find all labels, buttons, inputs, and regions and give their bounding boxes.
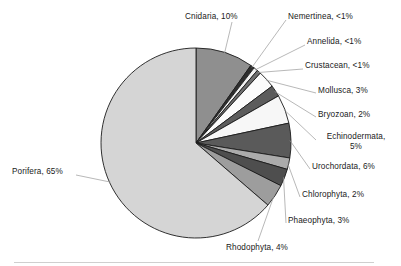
slice-label-crustacean: Crustacean, <1% <box>305 61 370 71</box>
leader-line-annelida <box>255 45 305 70</box>
bottom-divider <box>14 262 374 263</box>
slice-label-chlorophyta: Chlorophyta, 2% <box>302 190 364 200</box>
slice-label-rhodophyta: Rhodophyta, 4% <box>226 243 288 253</box>
leader-line-porifera <box>76 175 111 182</box>
slice-label-echinodermata: Echinodermata, 5% <box>318 132 394 152</box>
pie-slices-group <box>101 48 291 238</box>
leader-line-nemertinea <box>252 20 286 67</box>
pie-chart-figure: Cnidaria, 10% Nemertinea, <1% Annelida, … <box>0 0 401 266</box>
leader-line-chlorophyta <box>288 164 300 197</box>
slice-label-urochordata: Urochordata, 6% <box>312 162 375 172</box>
leader-line-cnidaria <box>224 22 232 53</box>
slice-label-annelida: Annelida, <1% <box>307 37 361 47</box>
leader-line-phaeophyta <box>284 177 286 223</box>
slice-label-echinodermata-line1: Echinodermata, <box>327 132 386 141</box>
slice-label-mollusca: Mollusca, 3% <box>318 86 368 96</box>
slice-label-echinodermata-line2: 5% <box>350 142 362 151</box>
slice-label-bryozoan: Bryozoan, 2% <box>318 110 370 120</box>
slice-label-porifera: Porifera, 65% <box>12 167 63 177</box>
leader-line-urochordata <box>290 141 310 169</box>
slice-label-phaeophyta: Phaeophyta, 3% <box>288 216 350 226</box>
slice-label-cnidaria: Cnidaria, 10% <box>185 12 238 22</box>
leader-line-crustacean <box>258 69 303 73</box>
slice-label-nemertinea: Nemertinea, <1% <box>288 12 353 22</box>
